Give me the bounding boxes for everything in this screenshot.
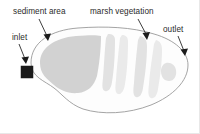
diagram-canvas: sediment area marsh vegetation inlet out… <box>0 0 200 134</box>
sediment-area-leader-line <box>39 19 47 36</box>
inlet-marker-icon <box>21 66 33 78</box>
inlet-label: inlet <box>12 33 28 42</box>
sediment-area-label: sediment area <box>13 7 66 16</box>
outlet-label: outlet <box>163 25 184 34</box>
inlet-leader-line <box>19 44 25 59</box>
marsh-vegetation-label: marsh vegetation <box>90 7 154 16</box>
inlet-arrowhead-icon <box>22 57 30 65</box>
pond-diagram-figure: sediment area marsh vegetation inlet out… <box>0 0 200 134</box>
